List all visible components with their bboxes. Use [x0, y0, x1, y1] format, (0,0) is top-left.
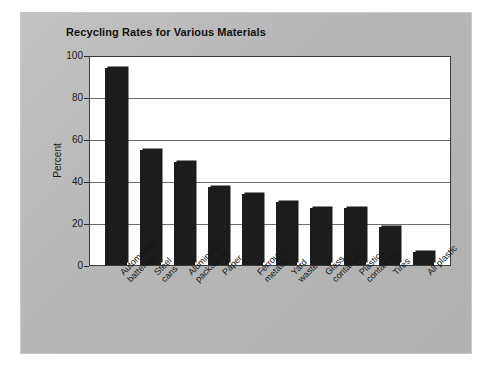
gridline [90, 98, 450, 99]
gridline [90, 56, 450, 57]
bar [174, 162, 195, 265]
y-tick-mark [84, 266, 89, 267]
y-tick-label: 40 [55, 176, 83, 187]
y-tick-label: 100 [55, 50, 83, 61]
plot-area [89, 56, 451, 266]
chart-card: Recycling Rates for Various Materials Pe… [21, 13, 471, 353]
y-tick-label: 60 [55, 134, 83, 145]
gridline [90, 140, 450, 141]
bar [105, 68, 126, 265]
chart-title: Recycling Rates for Various Materials [66, 26, 266, 38]
y-tick-label: 80 [55, 92, 83, 103]
chart-figure: Recycling Rates for Various Materials Pe… [0, 0, 492, 372]
y-tick-label: 0 [55, 260, 83, 271]
y-tick-label: 20 [55, 218, 83, 229]
bar [310, 208, 331, 265]
bar [242, 194, 263, 265]
